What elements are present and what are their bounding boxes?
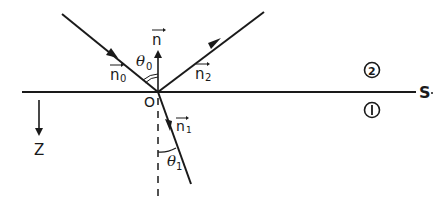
refracted-vector-subscript: 1 — [186, 125, 192, 135]
surface-label-dot — [431, 92, 433, 94]
refracted-angle-subscript: 1 — [176, 161, 182, 172]
refracted-ray — [158, 92, 191, 184]
incident-angle-subscript: 0 — [146, 61, 152, 72]
reflected-vector-subscript: 2 — [205, 72, 211, 83]
reflected-direction-arrow-icon — [208, 38, 221, 49]
refracted-angle-label: θ — [167, 152, 176, 170]
overarrow-head-icon — [207, 62, 210, 66]
incident-vector-label: n — [110, 66, 120, 84]
overarrow-head-icon — [186, 116, 189, 120]
reflected-vector-label: n — [195, 65, 205, 83]
origin-label: O — [144, 94, 155, 110]
z-axis-label: Z — [34, 141, 44, 159]
medium-upper-label: 2 — [368, 65, 376, 78]
ray-diagram: n θ 0 n 0 n 2 O n 1 θ 1 Z S 2 — [0, 0, 440, 213]
normal-vector-label: n — [152, 31, 162, 49]
refracted-vector-label: n — [176, 118, 185, 134]
incident-direction-arrow-icon — [106, 48, 118, 58]
overarrow-head-icon — [163, 28, 166, 32]
incident-vector-subscript: 0 — [120, 73, 126, 84]
incident-angle-label: θ — [136, 52, 145, 70]
surface-label: S — [419, 83, 431, 102]
